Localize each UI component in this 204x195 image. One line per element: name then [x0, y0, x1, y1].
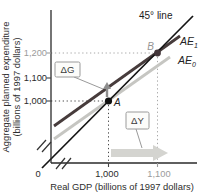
ae1-label-sub: 1: [194, 42, 198, 49]
delta-g-leader-line: [74, 77, 103, 89]
delta-y-callout: ΔY: [126, 112, 149, 129]
delta-y-leader-line: [136, 129, 142, 148]
x-tick-label-1000: 1,000: [95, 169, 118, 179]
x-tick-label-1100: 1,100: [147, 169, 170, 179]
ae1-label: AE1: [179, 35, 198, 49]
point-a-label: A: [113, 97, 121, 108]
ae1-label-base: AE: [179, 35, 195, 47]
y-axis-title-line1: Aggregate planned expenditure: [0, 22, 11, 153]
delta-g-label: ΔG: [61, 64, 75, 75]
x-origin-label: 0: [35, 169, 40, 179]
point-b-label: B: [147, 41, 154, 52]
delta-y-label: ΔY: [131, 115, 144, 126]
y-tick-label-1000: 1,000: [24, 96, 47, 106]
x-axis-title: Real GDP (billions of 1997 dollars): [50, 181, 194, 192]
y-axis-title-line2: (billions of 1997 dollars): [11, 37, 22, 136]
45-degree-line: [42, 16, 193, 168]
y-tick-label-1100: 1,100: [24, 73, 47, 83]
ae1-line: [54, 36, 180, 126]
y-tick-label-1200: 1,200: [24, 48, 47, 58]
delta-g-callout: ΔG: [55, 62, 80, 77]
keynesian-cross-figure: ΔG ΔY A B 45° line AE1 AE0 1,200 1,100 1…: [0, 0, 204, 195]
delta-y-arrow: [111, 145, 168, 161]
45-degree-line-label: 45° line: [139, 10, 173, 21]
expenditure-chart: ΔG ΔY A B 45° line AE1 AE0 1,200 1,100 1…: [0, 0, 204, 195]
point-b-dot: [154, 50, 161, 57]
ae0-label-base: AE: [177, 54, 193, 66]
ae0-label: AE0: [177, 54, 196, 68]
point-a-dot: [105, 97, 112, 104]
ae0-label-sub: 0: [192, 61, 196, 68]
